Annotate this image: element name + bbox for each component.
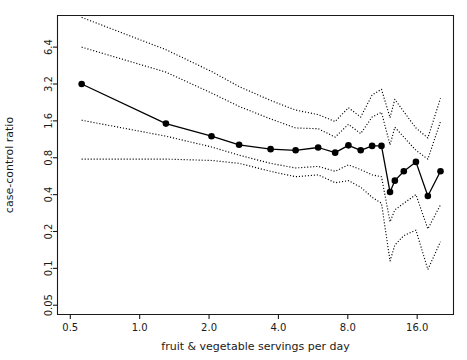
chart-container: 0.51.02.04.08.016.00.050.10.20.40.81.63.… (0, 0, 467, 360)
x-tick-label: 8.0 (340, 322, 356, 333)
data-point-marker (369, 143, 376, 150)
confidence-bands-layer (82, 17, 441, 269)
x-tick-label: 0.5 (62, 322, 78, 333)
fit-line-layer (82, 84, 441, 196)
axis-labels-layer: 0.51.02.04.08.016.00.050.10.20.40.81.63.… (3, 39, 428, 352)
data-point-marker (332, 149, 339, 156)
data-point-marker (413, 159, 420, 166)
axes-layer (53, 16, 454, 320)
x-axis-title: fruit & vegetable servings per day (161, 340, 350, 353)
y-tick-label: 0.8 (43, 150, 54, 166)
data-point-marker (387, 189, 394, 196)
y-tick-label: 0.05 (43, 294, 54, 316)
data-point-marker (401, 168, 408, 175)
x-tick-label: 2.0 (201, 322, 217, 333)
data-point-marker (78, 81, 85, 88)
data-point-marker (163, 120, 170, 127)
data-point-marker (437, 168, 444, 175)
y-tick-label: 0.4 (43, 187, 54, 203)
y-tick-label: 3.2 (43, 76, 54, 92)
x-tick-label: 16.0 (406, 322, 428, 333)
data-point-marker (236, 142, 243, 149)
data-point-marker (392, 177, 399, 184)
x-tick-label: 4.0 (270, 322, 286, 333)
y-tick-label: 1.6 (43, 113, 54, 129)
data-point-marker (292, 147, 299, 154)
data-point-marker (345, 142, 352, 149)
data-point-marker (315, 144, 322, 151)
case-control-ratio-chart: 0.51.02.04.08.016.00.050.10.20.40.81.63.… (0, 0, 467, 360)
data-point-marker (378, 143, 385, 150)
data-point-marker (357, 147, 364, 154)
data-point-marker (267, 146, 274, 153)
confidence-band-line (82, 47, 441, 159)
data-point-marker (208, 133, 215, 140)
y-tick-label: 0.2 (43, 224, 54, 240)
data-point-marker (425, 193, 432, 200)
y-axis-title: case-control ratio (3, 117, 16, 214)
y-tick-label: 0.1 (43, 260, 54, 276)
y-tick-label: 6.4 (43, 39, 54, 55)
x-tick-label: 1.0 (132, 322, 148, 333)
plot-frame (58, 16, 454, 315)
confidence-band-line (82, 17, 441, 138)
estimate-line (82, 84, 441, 196)
